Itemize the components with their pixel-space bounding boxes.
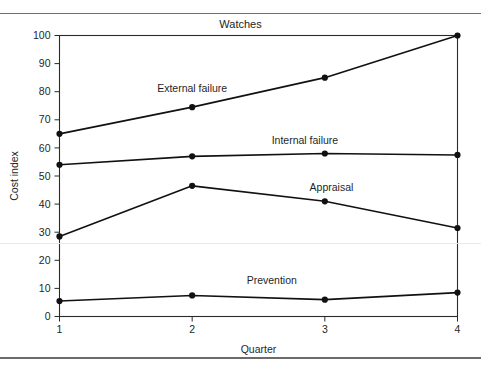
y-axis-tick-label: 70	[39, 113, 51, 125]
line-chart-plot: 01020304050607080901001234QuarterCost in…	[0, 14, 481, 357]
y-axis-tick-label: 30	[39, 226, 51, 238]
series-data-point	[322, 150, 328, 156]
series-data-point	[322, 297, 328, 303]
y-axis-tick-label: 20	[39, 254, 51, 266]
series-line	[60, 186, 458, 237]
y-axis-tick-label: 80	[39, 85, 51, 97]
y-axis-title: Cost index	[8, 150, 20, 200]
y-axis-tick-label: 40	[39, 198, 51, 210]
series-data-point	[322, 198, 328, 204]
y-axis-tick-label: 50	[39, 170, 51, 182]
series-data-point	[189, 104, 195, 110]
series-label: Appraisal	[310, 181, 354, 193]
series-data-point	[454, 290, 460, 296]
series-label: External failure	[157, 82, 227, 94]
x-axis-tick-label: 2	[189, 323, 195, 335]
y-axis-tick-label: 100	[33, 29, 51, 41]
y-axis-tick-label: 60	[39, 142, 51, 154]
series-data-point	[322, 75, 328, 81]
series-line	[60, 154, 458, 165]
page-bottom-rule	[0, 357, 481, 359]
y-axis-tick-label: 90	[39, 57, 51, 69]
series-label: Prevention	[247, 274, 297, 286]
scan-artifact-line	[0, 243, 481, 244]
series-line	[60, 293, 458, 301]
x-axis-tick-label: 3	[322, 323, 328, 335]
series-data-point	[454, 152, 460, 158]
series-data-point	[56, 162, 62, 168]
x-axis-tick-label: 1	[57, 323, 63, 335]
series-data-point	[454, 32, 460, 38]
series-label: Internal failure	[272, 134, 339, 146]
y-axis-tick-label: 0	[45, 310, 51, 322]
chart-container: Watches 01020304050607080901001234Quarte…	[0, 14, 481, 357]
series-data-point	[56, 298, 62, 304]
series-data-point	[189, 292, 195, 298]
y-axis-tick-label: 10	[39, 282, 51, 294]
series-data-point	[189, 153, 195, 159]
series-data-point	[56, 131, 62, 137]
page-top-cutoff-text	[0, 0, 481, 11]
x-axis-title: Quarter	[241, 343, 277, 355]
series-line	[60, 36, 458, 134]
series-data-point	[189, 183, 195, 189]
series-data-point	[454, 225, 460, 231]
series-data-point	[56, 233, 62, 239]
x-axis-tick-label: 4	[455, 323, 461, 335]
